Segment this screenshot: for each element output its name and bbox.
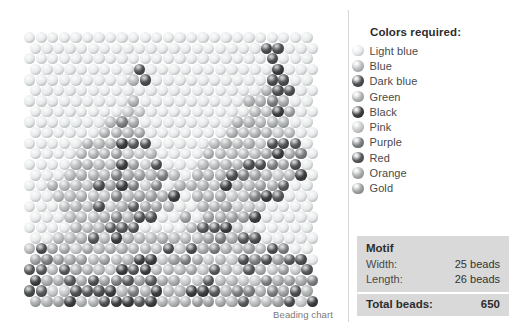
bead	[53, 148, 64, 159]
bead	[186, 53, 197, 64]
bead	[284, 169, 295, 180]
bead	[232, 264, 243, 275]
bead	[82, 285, 93, 296]
bead	[295, 296, 306, 307]
bead	[192, 169, 203, 180]
bead	[134, 169, 145, 180]
bead	[295, 148, 306, 159]
bead	[278, 32, 289, 43]
bead	[197, 285, 208, 296]
bead	[99, 211, 110, 222]
bead	[145, 169, 156, 180]
bead	[186, 264, 197, 275]
bead	[203, 190, 214, 201]
bead	[163, 285, 174, 296]
bead	[99, 190, 110, 201]
bead	[197, 243, 208, 254]
bead	[243, 74, 254, 85]
bead	[122, 296, 133, 307]
legend-item-label: Green	[370, 91, 401, 103]
legend-item-label: Red	[370, 152, 390, 164]
bead	[163, 53, 174, 64]
legend-item-pink: Pink	[352, 119, 510, 134]
bead	[122, 211, 133, 222]
bead	[134, 148, 145, 159]
legend-item-blue: Blue	[352, 58, 510, 73]
bead	[215, 169, 226, 180]
bead	[140, 32, 151, 43]
bead	[82, 116, 93, 127]
bead	[116, 53, 127, 64]
beading-chart-app: Beading chart Colors required: Light blu…	[0, 0, 513, 332]
bead	[140, 74, 151, 85]
bead	[301, 53, 312, 64]
bead	[134, 211, 145, 222]
legend-panel: Colors required: Light blueBlueDark blue…	[352, 26, 510, 196]
bead	[232, 95, 243, 106]
bead	[267, 53, 278, 64]
bead	[140, 264, 151, 275]
bead	[24, 32, 35, 43]
bead	[209, 285, 220, 296]
bead	[232, 285, 243, 296]
bead	[249, 127, 260, 138]
bead	[41, 211, 52, 222]
bead	[93, 53, 104, 64]
bead	[36, 243, 47, 254]
bead	[220, 264, 231, 275]
bead	[232, 32, 243, 43]
bead	[59, 74, 70, 85]
bead	[145, 211, 156, 222]
bead	[174, 53, 185, 64]
bead	[36, 32, 47, 43]
bead	[307, 296, 318, 307]
bead	[53, 211, 64, 222]
bead-swatch-green-icon	[352, 91, 364, 103]
bead	[105, 74, 116, 85]
bead	[209, 95, 220, 106]
legend-list: Light blueBlueDark blueGreenBlackPinkPur…	[352, 43, 510, 196]
bead	[145, 296, 156, 307]
bead-swatch-black-icon	[352, 106, 364, 118]
bead	[215, 190, 226, 201]
bead	[24, 116, 35, 127]
bead	[30, 190, 41, 201]
bead	[243, 95, 254, 106]
bead	[186, 285, 197, 296]
bead	[209, 264, 220, 275]
bead	[111, 148, 122, 159]
bead	[76, 169, 87, 180]
bead	[220, 74, 231, 85]
bead	[238, 296, 249, 307]
bead	[70, 74, 81, 85]
bead	[232, 74, 243, 85]
bead	[226, 296, 237, 307]
bead	[272, 211, 283, 222]
legend-item-green: Green	[352, 89, 510, 104]
bead	[168, 211, 179, 222]
bead	[186, 74, 197, 85]
bead	[128, 32, 139, 43]
bead	[151, 74, 162, 85]
bead	[122, 127, 133, 138]
bead	[255, 53, 266, 64]
legend-item-gold: Gold	[352, 181, 510, 196]
bead	[238, 169, 249, 180]
bead	[243, 32, 254, 43]
bead	[140, 285, 151, 296]
bead	[243, 285, 254, 296]
bead	[134, 296, 145, 307]
bead	[64, 169, 75, 180]
bead	[24, 74, 35, 85]
bead	[76, 127, 87, 138]
bead	[47, 285, 58, 296]
bead	[301, 95, 312, 106]
bead	[88, 190, 99, 201]
bead	[267, 32, 278, 43]
bead	[128, 53, 139, 64]
motif-length-value: 26 beads	[455, 272, 500, 287]
bead	[174, 32, 185, 43]
bead	[128, 74, 139, 85]
bead	[47, 95, 58, 106]
bead	[30, 211, 41, 222]
